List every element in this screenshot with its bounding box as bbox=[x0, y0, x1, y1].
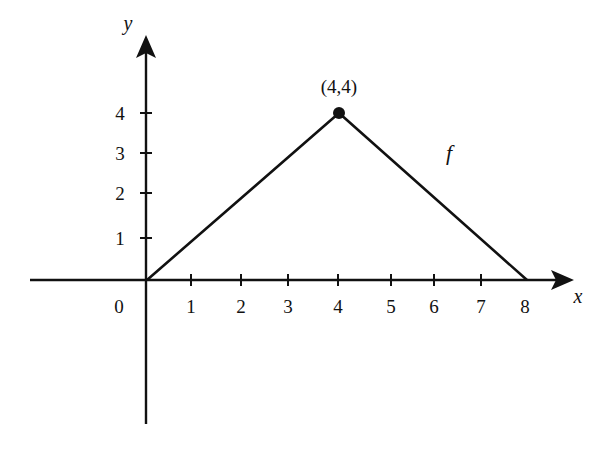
x-tick-label: 8 bbox=[520, 296, 530, 317]
y-axis-label: y bbox=[122, 12, 133, 35]
x-tick-label: 5 bbox=[386, 296, 396, 317]
function-label: f bbox=[446, 140, 455, 165]
y-tick-labels: 1 2 3 4 bbox=[115, 103, 125, 249]
x-tick-label: 6 bbox=[429, 296, 439, 317]
x-axis-label: x bbox=[573, 285, 583, 307]
x-tick-label: 4 bbox=[333, 296, 343, 317]
function-f-line bbox=[147, 113, 527, 280]
origin-label: 0 bbox=[114, 296, 124, 317]
peak-point-marker bbox=[333, 107, 345, 119]
x-tick-label: 3 bbox=[283, 296, 293, 317]
x-axis bbox=[30, 270, 574, 290]
x-tick-label: 1 bbox=[186, 296, 196, 317]
x-tick-labels: 0 1 2 3 4 5 6 7 8 bbox=[114, 296, 530, 317]
y-tick-label: 2 bbox=[115, 183, 125, 204]
x-tick-label: 2 bbox=[236, 296, 246, 317]
peak-point-label: (4,4) bbox=[321, 76, 357, 98]
y-tick-label: 4 bbox=[115, 103, 125, 124]
y-axis bbox=[136, 35, 156, 424]
x-tick-label: 7 bbox=[476, 296, 486, 317]
function-graph: 0 1 2 3 4 5 6 7 8 1 2 3 4 y x (4,4) f bbox=[0, 0, 604, 451]
y-tick-label: 1 bbox=[115, 228, 125, 249]
y-tick-label: 3 bbox=[115, 143, 125, 164]
graph-svg: 0 1 2 3 4 5 6 7 8 1 2 3 4 y x (4,4) f bbox=[0, 0, 604, 451]
